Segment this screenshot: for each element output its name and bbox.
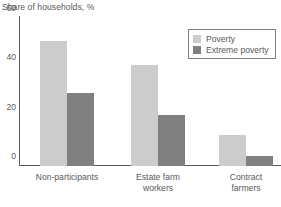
y-tick-label: 20 (6, 102, 16, 112)
y-tick-label: 60 (6, 3, 16, 13)
legend-item-poverty: Poverty (193, 33, 269, 44)
x-axis-label: Contract farmers (201, 172, 281, 193)
legend-swatch-extreme-poverty (193, 46, 201, 54)
x-axis-label: Non-participants (22, 172, 112, 183)
bar-chart: Share of households, % 0204060 Non-parti… (0, 0, 281, 207)
legend-label-extreme-poverty: Extreme poverty (206, 45, 269, 55)
bar-group (40, 18, 94, 166)
bar-poverty (219, 135, 246, 166)
bar-group (131, 18, 185, 166)
bar-extreme-poverty (246, 156, 273, 166)
y-tick-label: 0 (11, 151, 16, 161)
bar-poverty (131, 65, 158, 166)
bar-extreme-poverty (158, 115, 185, 166)
legend-label-poverty: Poverty (206, 34, 235, 44)
legend-item-extreme-poverty: Extreme poverty (193, 44, 269, 55)
y-axis-line (19, 16, 20, 166)
y-tick-label: 40 (6, 52, 16, 62)
legend-swatch-poverty (193, 35, 201, 43)
bar-extreme-poverty (67, 93, 94, 166)
bar-poverty (40, 41, 67, 166)
x-axis-label: Estate farm workers (113, 172, 203, 193)
chart-legend: Poverty Extreme poverty (188, 29, 276, 59)
